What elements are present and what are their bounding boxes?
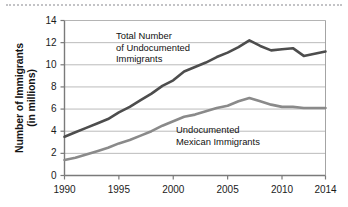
y-tick-label-0: 0: [35, 170, 57, 181]
x-tick-label-2000: 2000: [153, 184, 193, 195]
x-tick-label-2010: 2010: [262, 184, 302, 195]
y-axis-title: Number of Immigrants (in millions): [13, 38, 37, 158]
y-tick-label-4: 4: [35, 125, 57, 136]
series-label-mexican-undocumented: Undocumented Mexican Immigrants: [176, 124, 260, 147]
series-label-mexican-line-2: Mexican Immigrants: [176, 136, 260, 148]
y-axis-title-line-2: (in millions): [25, 38, 37, 158]
chart-figure: Number of Immigrants (in millions) 02468…: [0, 0, 348, 207]
y-axis-title-line-1: Number of Immigrants: [13, 38, 25, 158]
y-tick-label-14: 14: [35, 15, 57, 26]
series-label-total-line-3: Immigrants: [116, 53, 190, 65]
axis-lines-group: [65, 21, 326, 176]
x-tick-label-2005: 2005: [208, 184, 248, 195]
tick-marks-group: [61, 21, 326, 180]
series-label-total-undocumented: Total Number of Undocumented Immigrants: [116, 30, 190, 65]
y-tick-label-12: 12: [35, 37, 57, 48]
x-tick-label-1990: 1990: [45, 184, 85, 195]
y-tick-label-2: 2: [35, 147, 57, 158]
y-tick-label-6: 6: [35, 103, 57, 114]
y-tick-label-10: 10: [35, 59, 57, 70]
series-line-0: [65, 40, 326, 136]
x-tick-label-2014: 2014: [306, 184, 346, 195]
series-label-total-line-2: of Undocumented: [116, 42, 190, 54]
x-tick-label-1995: 1995: [99, 184, 139, 195]
series-label-total-line-1: Total Number: [116, 30, 190, 42]
series-label-mexican-line-1: Undocumented: [176, 124, 260, 136]
y-tick-label-8: 8: [35, 81, 57, 92]
